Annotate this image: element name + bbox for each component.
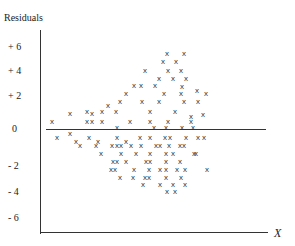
data-point-marker: x [200, 134, 208, 142]
data-point-marker: x [97, 150, 105, 158]
y-tick-label: - 4 [8, 187, 32, 197]
y-tick-label: - 2 [8, 161, 32, 171]
data-point-marker: x [113, 124, 121, 132]
data-point-marker: x [162, 124, 170, 132]
data-point-marker: x [180, 98, 188, 106]
data-point-marker: x [199, 111, 207, 119]
data-point-marker: x [180, 142, 188, 150]
data-point-marker: x [116, 174, 124, 182]
data-point-marker: x [88, 118, 96, 126]
data-point-marker: x [194, 98, 202, 106]
y-tick-label: - 6 [8, 213, 32, 223]
data-point-marker: x [178, 124, 186, 132]
data-point-marker: x [116, 98, 124, 106]
data-point-marker: x [172, 58, 180, 66]
y-tick-label: + 2 [8, 91, 32, 101]
data-point-marker: x [169, 150, 177, 158]
data-point-marker: x [163, 50, 171, 58]
data-point-marker: x [155, 75, 163, 83]
data-point-marker: x [139, 181, 147, 189]
data-point-marker: x [112, 108, 120, 116]
data-point-marker: x [85, 134, 93, 142]
data-point-marker: x [132, 150, 140, 158]
data-point-marker: x [53, 134, 61, 142]
data-point-marker: x [137, 142, 145, 150]
data-point-marker: x [171, 188, 179, 196]
data-point-marker: x [155, 98, 163, 106]
y-axis-label: Residuals [4, 12, 43, 23]
data-point-marker: x [122, 90, 130, 98]
data-point-marker: x [169, 75, 177, 83]
data-point-marker: x [151, 82, 159, 90]
y-tick-label: 0 [12, 124, 36, 134]
x-axis [40, 232, 268, 233]
data-point-marker: x [180, 50, 188, 58]
data-point-marker: x [156, 142, 164, 150]
data-point-marker: x [171, 108, 179, 116]
data-point-marker: x [104, 102, 112, 110]
data-point-marker: x [150, 124, 158, 132]
data-point-marker: x [141, 67, 149, 75]
data-point-marker: x [66, 110, 74, 118]
data-point-marker: x [181, 181, 189, 189]
data-point-marker: x [122, 158, 130, 166]
data-point-marker: x [126, 118, 134, 126]
y-tick-label: + 6 [8, 42, 32, 52]
data-point-marker: x [66, 130, 74, 138]
data-point-marker: x [159, 58, 167, 66]
data-point-marker: x [137, 82, 145, 90]
data-point-marker: x [192, 150, 200, 158]
data-point-marker: x [203, 166, 211, 174]
data-point-marker: x [163, 188, 171, 196]
data-point-marker: x [160, 90, 168, 98]
y-tick-label: + 4 [8, 66, 32, 76]
data-point-marker: x [178, 83, 186, 91]
data-point-marker: x [146, 134, 154, 142]
data-point-marker: x [48, 118, 56, 126]
data-point-marker: x [193, 87, 201, 95]
data-point-marker: x [98, 118, 106, 126]
data-point-marker: x [146, 108, 154, 116]
x-axis-label: X [274, 226, 281, 241]
y-axis [40, 30, 41, 234]
data-point-marker: x [138, 98, 146, 106]
data-point-marker: x [76, 142, 84, 150]
data-point-marker: x [129, 174, 137, 182]
data-point-marker: x [202, 90, 210, 98]
data-point-marker: x [189, 124, 197, 132]
